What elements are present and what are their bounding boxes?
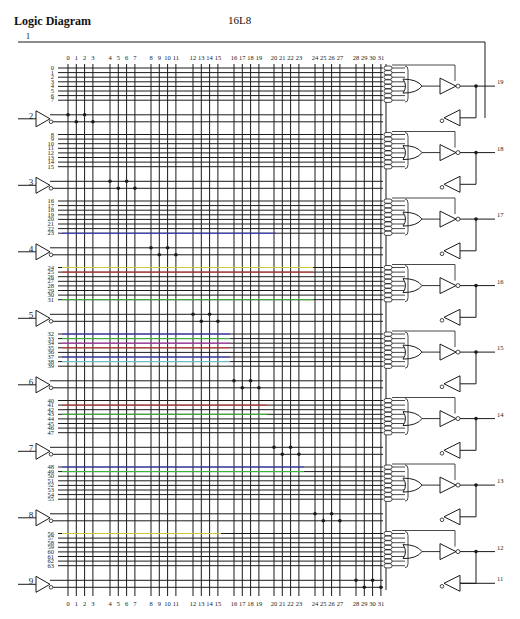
and-gate bbox=[384, 337, 392, 341]
output-buffer-icon bbox=[440, 411, 456, 427]
and-gate bbox=[384, 84, 392, 88]
feedback-buffer-icon bbox=[444, 110, 460, 126]
column-label-top: 3 bbox=[91, 54, 94, 61]
and-gate bbox=[384, 213, 392, 217]
junction-dot bbox=[354, 579, 358, 583]
junction-dot bbox=[149, 246, 153, 250]
inversion-bubble bbox=[440, 186, 444, 190]
column-label-top: 2 bbox=[83, 54, 86, 61]
column-label-bottom: 27 bbox=[337, 600, 344, 607]
and-gate bbox=[384, 422, 392, 426]
and-gate bbox=[384, 559, 392, 563]
and-gate bbox=[384, 364, 392, 368]
output-buffer-icon bbox=[440, 78, 456, 94]
column-label-bottom: 15 bbox=[215, 600, 222, 607]
column-label-top: 16 bbox=[231, 54, 238, 61]
and-gate bbox=[384, 408, 392, 412]
and-gate bbox=[384, 550, 392, 554]
column-label-bottom: 17 bbox=[239, 600, 246, 607]
output-pin-label: 18 bbox=[497, 145, 504, 152]
column-label-top: 4 bbox=[108, 54, 112, 61]
column-label-top: 30 bbox=[369, 54, 376, 61]
and-gate bbox=[384, 156, 392, 160]
junction-dot bbox=[125, 180, 129, 184]
product-term-label: 39 bbox=[48, 362, 55, 369]
junction-dot bbox=[66, 113, 70, 117]
and-gate bbox=[384, 89, 392, 93]
column-label-top: 9 bbox=[158, 54, 161, 61]
column-label-top: 27 bbox=[337, 54, 344, 61]
and-gate bbox=[384, 470, 392, 474]
column-label-top: 20 bbox=[271, 54, 278, 61]
and-gate bbox=[384, 160, 392, 164]
inversion-bubble bbox=[49, 120, 53, 124]
column-label-top: 6 bbox=[125, 54, 129, 61]
and-gate bbox=[384, 431, 392, 435]
and-gate bbox=[384, 227, 392, 231]
column-label-top: 1 bbox=[75, 54, 78, 61]
column-label-top: 29 bbox=[361, 54, 368, 61]
and-gate bbox=[384, 555, 392, 559]
column-label-top: 22 bbox=[287, 54, 294, 61]
and-gate bbox=[384, 412, 392, 416]
junction-dot bbox=[379, 586, 383, 590]
and-gate bbox=[384, 133, 392, 137]
column-label-bottom: 18 bbox=[247, 600, 254, 607]
output-buffer-icon bbox=[440, 344, 456, 360]
and-gate bbox=[384, 545, 392, 549]
column-label-bottom: 1 bbox=[75, 600, 78, 607]
column-label-bottom: 28 bbox=[353, 600, 360, 607]
column-label-bottom: 4 bbox=[108, 600, 112, 607]
or-gate bbox=[403, 279, 422, 293]
or-gate bbox=[403, 212, 422, 226]
and-gate bbox=[384, 532, 392, 536]
inversion-bubble bbox=[49, 586, 53, 590]
output-pin-label: 16 bbox=[497, 278, 504, 285]
feedback-buffer-icon bbox=[444, 376, 460, 392]
junction-dot bbox=[322, 519, 326, 523]
output-pin-label: 12 bbox=[497, 544, 504, 551]
junction-dot bbox=[272, 446, 276, 450]
junction-dot bbox=[174, 253, 178, 257]
pin-label-1: 1 bbox=[26, 31, 31, 41]
and-gate bbox=[384, 332, 392, 336]
and-gate bbox=[384, 360, 392, 364]
output-pin-label: 19 bbox=[497, 78, 504, 85]
column-label-top: 14 bbox=[206, 54, 213, 61]
inversion-bubble bbox=[456, 350, 460, 354]
and-gate bbox=[384, 417, 392, 421]
column-label-top: 0 bbox=[66, 54, 69, 61]
column-label-top: 18 bbox=[247, 54, 254, 61]
output-pin-label: 13 bbox=[497, 477, 504, 484]
column-label-bottom: 26 bbox=[328, 600, 335, 607]
input-buffer-icon bbox=[36, 576, 50, 592]
column-label-top: 15 bbox=[215, 54, 222, 61]
inversion-bubble bbox=[440, 585, 444, 589]
feedback-buffer-icon bbox=[444, 575, 460, 591]
inversion-bubble bbox=[456, 84, 460, 88]
and-gate bbox=[384, 151, 392, 155]
feedback-buffer-icon bbox=[444, 509, 460, 525]
input-buffer-icon bbox=[36, 244, 50, 260]
junction-dot bbox=[191, 313, 195, 317]
column-label-bottom: 9 bbox=[158, 600, 161, 607]
and-gate bbox=[384, 497, 392, 501]
junction-dot bbox=[133, 187, 137, 191]
column-label-top: 17 bbox=[239, 54, 246, 61]
and-gate bbox=[384, 199, 392, 203]
feedback-buffer-icon bbox=[444, 442, 460, 458]
column-label-top: 11 bbox=[173, 54, 179, 61]
product-term-label: 31 bbox=[48, 296, 55, 303]
junction-dot bbox=[281, 453, 285, 457]
inversion-bubble bbox=[456, 284, 460, 288]
and-gate bbox=[384, 488, 392, 492]
junction-dot bbox=[83, 113, 87, 117]
product-term-label: 15 bbox=[48, 163, 55, 170]
column-label-bottom: 16 bbox=[231, 600, 238, 607]
and-gate bbox=[384, 270, 392, 274]
input-buffer-icon bbox=[36, 377, 50, 393]
column-label-bottom: 13 bbox=[198, 600, 205, 607]
and-gate bbox=[384, 483, 392, 487]
junction-dot bbox=[158, 253, 162, 257]
output-buffer-icon bbox=[440, 544, 456, 560]
